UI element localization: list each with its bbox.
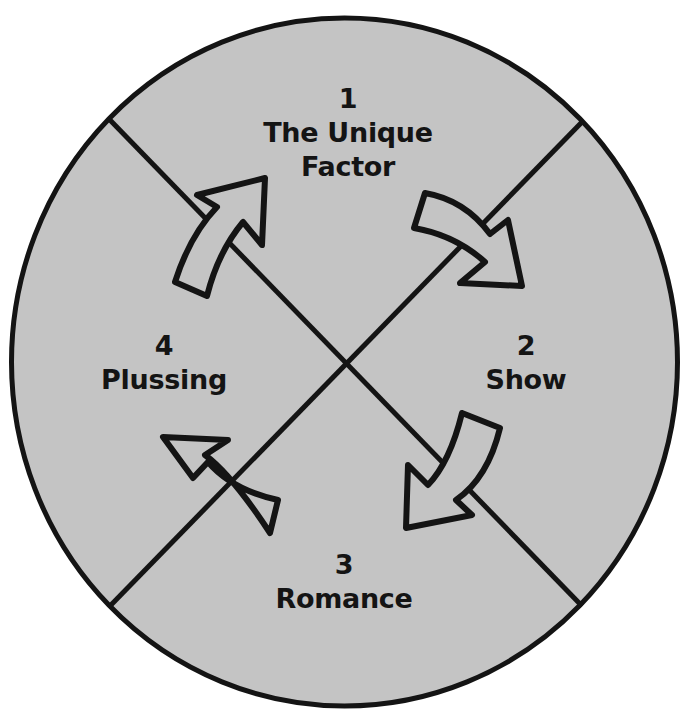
step-1-number: 1 bbox=[263, 82, 433, 116]
step-3-label: 3 Romance bbox=[275, 548, 412, 616]
step-2-number: 2 bbox=[486, 329, 567, 363]
step-1-label: 1 The Unique Factor bbox=[263, 82, 433, 184]
step-1-title-line-2: Factor bbox=[263, 150, 433, 184]
step-1-title-line-1: The Unique bbox=[263, 116, 433, 150]
step-3-title: Romance bbox=[275, 582, 412, 616]
step-4-number: 4 bbox=[101, 329, 227, 363]
step-4-label: 4 Plussing bbox=[101, 329, 227, 397]
step-2-label: 2 Show bbox=[486, 329, 567, 397]
step-3-number: 3 bbox=[275, 548, 412, 582]
step-2-title: Show bbox=[486, 363, 567, 397]
step-4-title: Plussing bbox=[101, 363, 227, 397]
